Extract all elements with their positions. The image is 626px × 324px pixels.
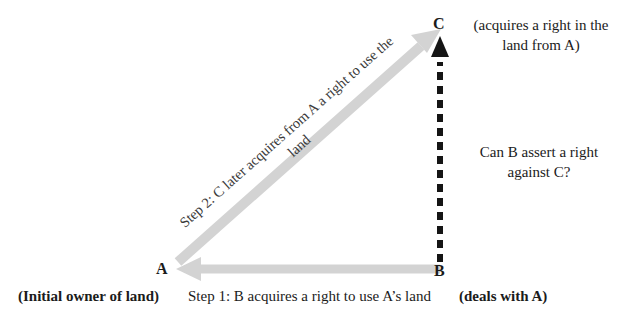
diagram-canvas: A B C (acquires a right in the land from… (0, 0, 626, 324)
node-c-role-text: (acquires a right in the land from A) (458, 16, 624, 56)
step1-label: Step 1: B acquires a right to use A’s la… (188, 287, 431, 307)
node-c-role-line2: land from A) (458, 36, 624, 56)
question-arrow-b-to-c (431, 36, 449, 262)
node-label-a: A (156, 261, 168, 277)
node-c-role-line1: (acquires a right in the (474, 17, 609, 33)
node-label-b: B (434, 263, 445, 279)
node-a-role-text: (Initial owner of land) (18, 287, 159, 307)
step1-arrow-b-to-a (176, 257, 440, 281)
node-b-role-text: (deals with A) (459, 287, 547, 307)
question-label: Can B assert a right against C? (459, 143, 619, 183)
question-label-line2: against C? (459, 163, 619, 183)
node-label-c: C (433, 16, 445, 32)
question-label-line1: Can B assert a right (480, 144, 598, 160)
